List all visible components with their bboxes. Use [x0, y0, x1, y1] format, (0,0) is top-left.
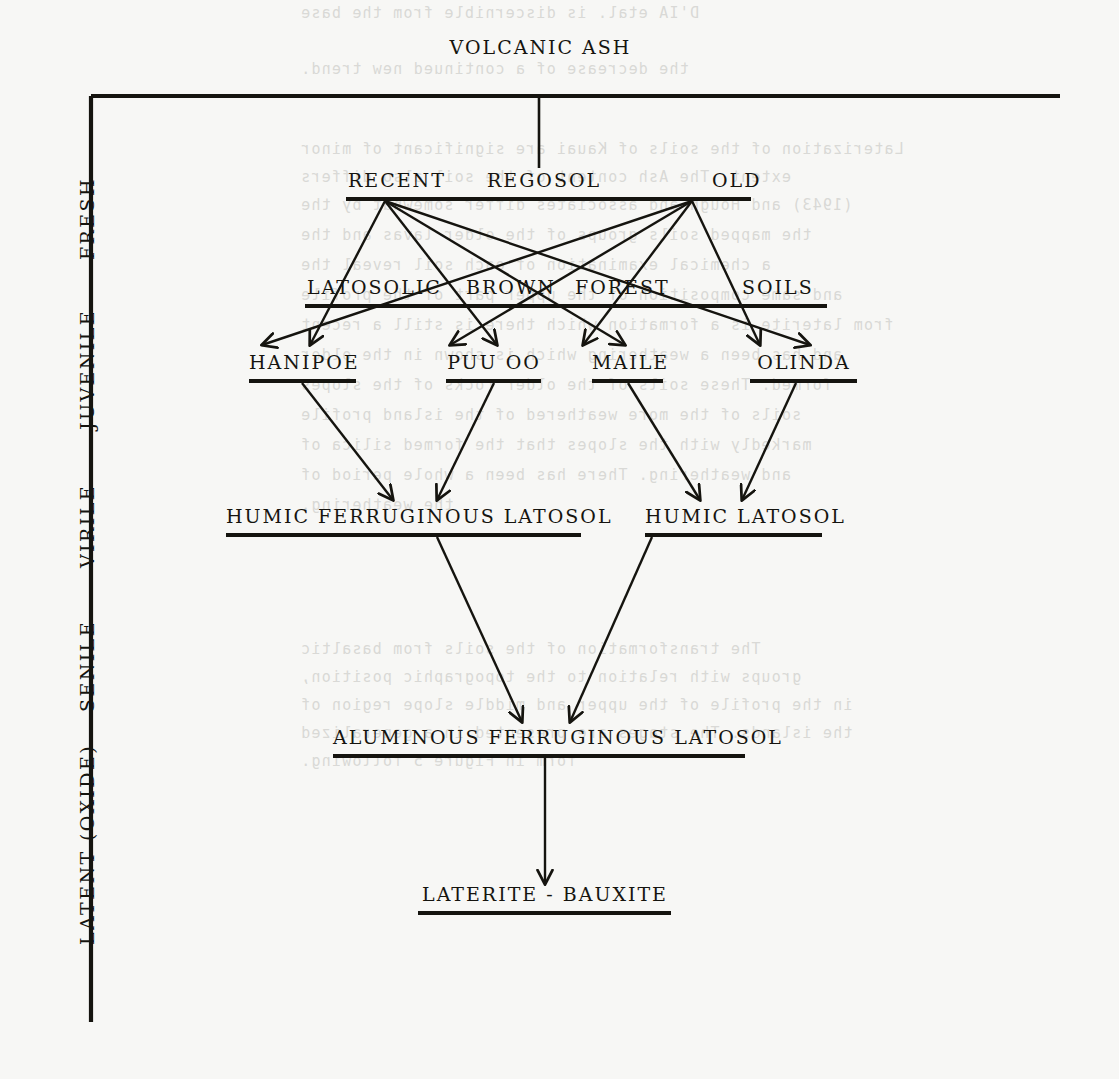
edge-hanipoe-to-humic-ferruginous-latosol	[302, 383, 393, 500]
node-olinda: OLINDA	[750, 351, 858, 373]
node-laterite-bauxite: LATERITE - BAUXITE	[418, 883, 672, 905]
edge-recent-to-olinda	[385, 201, 810, 345]
edge-old-to-hanipoe	[262, 201, 692, 345]
node-puu-oo: PUU OO	[446, 351, 542, 373]
edge-recent-to-hanipoe	[310, 201, 385, 345]
edge-maile-to-humic-latosol	[628, 383, 700, 500]
axis-stage-virile: VIRILE	[76, 484, 98, 568]
node-soils: SOILS	[742, 276, 832, 298]
node-regosol: REGOSOL	[487, 169, 617, 191]
node-old: OLD	[712, 169, 772, 191]
node-aluminous-ferruginous-latosol: ALUMINOUS FERRUGINOUS LATOSOL	[333, 726, 746, 748]
edge-old-to-olinda	[692, 201, 760, 345]
axis-stage-juvenile: JUVENILE	[76, 309, 98, 430]
axis-stage-latent-oxide: LATENT (OXIDE)	[76, 744, 98, 945]
node-humic-latosol: HUMIC LATOSOL	[645, 505, 823, 527]
node-recent: RECENT	[348, 169, 458, 191]
node-forest: FOREST	[575, 276, 685, 298]
node-hanipoe: HANIPOE	[249, 351, 357, 373]
node-maile: MAILE	[592, 351, 664, 373]
diagram-vector-layer	[0, 0, 1119, 1079]
node-volcanic-ash: VOLCANIC ASH	[448, 36, 633, 58]
edge-old-to-puu-oo	[450, 201, 692, 345]
node-latosolic: LATOSOLIC	[307, 276, 452, 298]
edge-recent-to-maile	[385, 201, 625, 345]
node-brown: BROWN	[466, 276, 561, 298]
axis-stage-senile: SENILE	[76, 620, 98, 712]
axis-stage-fresh: FRESH	[76, 177, 98, 260]
edge-puu-oo-to-humic-ferruginous-latosol	[437, 383, 494, 500]
node-humic-ferruginous-latosol: HUMIC FERRUGINOUS LATOSOL	[226, 505, 582, 527]
edge-humic-latosol-to-aluminous	[570, 537, 652, 722]
diagram-page: D'IA etal. is discernible from the baset…	[0, 0, 1119, 1079]
edge-humic-ferruginous-latosol-to-aluminous	[437, 537, 522, 722]
edge-olinda-to-humic-latosol	[742, 383, 796, 500]
